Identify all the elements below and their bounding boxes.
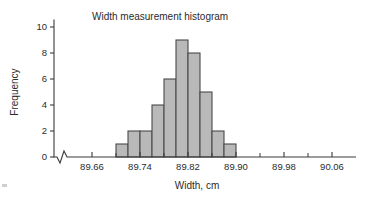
bar-series	[116, 40, 236, 157]
x-tick-label: 89.66	[80, 161, 104, 172]
x-tick-label: 89.98	[272, 161, 296, 172]
histogram-bar	[212, 131, 224, 157]
y-axis-title: Frequency	[9, 68, 20, 115]
histogram-bar	[152, 105, 164, 157]
y-tick-label: 6	[42, 73, 47, 84]
histogram-bar	[188, 53, 200, 157]
x-tick-label: 90.06	[320, 161, 344, 172]
x-tick-label: 89.74	[128, 161, 152, 172]
histogram-bar	[128, 131, 140, 157]
histogram-plot: 024681089.6689.7489.8289.9089.9890.06Wid…	[0, 0, 376, 197]
histogram-bar	[116, 144, 128, 157]
y-tick-label: 8	[42, 47, 47, 58]
y-axis-ticks: 0246810	[36, 21, 54, 162]
histogram-bar	[140, 131, 152, 157]
x-tick-label: 89.90	[224, 161, 248, 172]
histogram-bar	[176, 40, 188, 157]
x-axis-title: Width, cm	[175, 180, 219, 191]
histogram-figure: 024681089.6689.7489.8289.9089.9890.06Wid…	[0, 0, 376, 197]
chart-title: Width measurement histogram	[92, 11, 228, 22]
y-tick-label: 4	[42, 99, 47, 110]
y-tick-label: 0	[42, 151, 47, 162]
histogram-bar	[200, 92, 212, 157]
y-tick-label: 2	[42, 125, 47, 136]
histogram-bar	[224, 144, 236, 157]
y-tick-label: 10	[36, 21, 47, 32]
histogram-bar	[164, 79, 176, 157]
x-tick-label: 89.82	[176, 161, 200, 172]
